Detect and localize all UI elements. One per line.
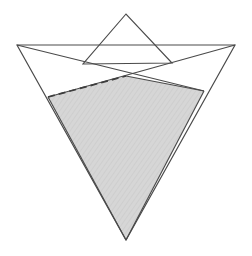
figure-canvas xyxy=(0,0,252,256)
geometry-diagram xyxy=(0,0,252,256)
